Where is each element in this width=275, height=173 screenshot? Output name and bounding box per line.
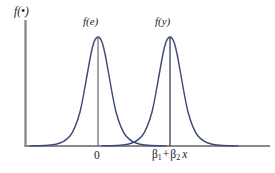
density-figure: f(•) f(e) f(y) 0 β1+β2x (0, 0, 275, 173)
x-tick-label-mean: β1+β2x (152, 149, 187, 162)
y-axis-label: f(•) (14, 6, 29, 18)
x-tick-label-zero: 0 (94, 150, 100, 162)
curve-label-outcome: f(y) (155, 16, 170, 27)
curve-label-error: f(e) (83, 16, 98, 27)
x-variable: x (180, 148, 187, 160)
plot-canvas (0, 0, 275, 173)
